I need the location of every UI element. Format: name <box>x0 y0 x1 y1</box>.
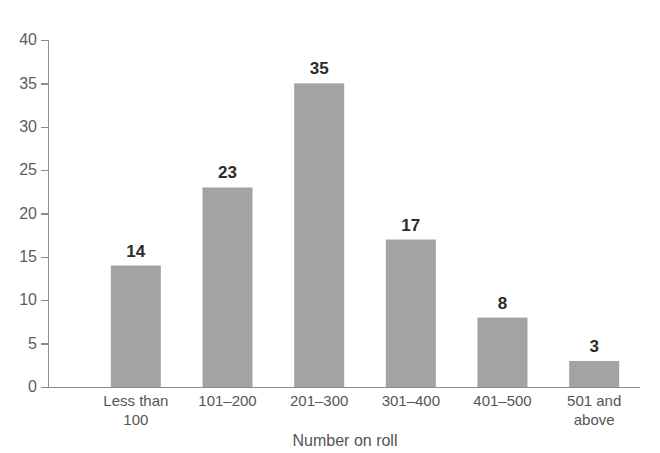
bar-value-label: 8 <box>498 294 507 313</box>
y-tick-label: 5 <box>28 335 37 352</box>
y-tick-label: 40 <box>19 31 37 48</box>
x-category-label: 401–500 <box>473 392 531 409</box>
bar <box>203 187 253 387</box>
y-tick-label: 30 <box>19 118 37 135</box>
bar-value-label: 23 <box>218 163 237 182</box>
chart-canvas: 0510152025303540 1423351783 Less than100… <box>0 0 660 453</box>
x-category-label: 301–400 <box>382 392 440 409</box>
bar <box>569 361 619 387</box>
x-category-label: 501 and <box>567 392 621 409</box>
bar-value-label: 17 <box>401 216 420 235</box>
y-tick-label: 10 <box>19 291 37 308</box>
x-category-label: Less than <box>103 392 168 409</box>
x-category-label: above <box>574 411 615 428</box>
bar <box>386 240 436 387</box>
y-tick-label: 25 <box>19 161 37 178</box>
bar-value-label: 3 <box>589 337 598 356</box>
x-category-label: 201–300 <box>290 392 348 409</box>
y-tick-label: 20 <box>19 205 37 222</box>
bar-value-label: 14 <box>126 242 145 261</box>
x-category-label: 100 <box>123 411 148 428</box>
bar <box>478 318 528 387</box>
bar-value-label: 35 <box>310 59 329 78</box>
bar-chart-figure: 0510152025303540 1423351783 Less than100… <box>0 0 660 453</box>
y-tick-label: 15 <box>19 248 37 265</box>
bar <box>111 266 161 387</box>
y-tick-label: 35 <box>19 75 37 92</box>
y-tick-label: 0 <box>28 378 37 395</box>
bar <box>294 83 344 387</box>
x-category-label: 101–200 <box>198 392 256 409</box>
x-axis-title: Number on roll <box>293 432 398 449</box>
